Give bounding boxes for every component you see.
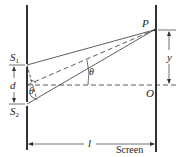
y-arrow-up <box>167 31 171 36</box>
label-o: O <box>146 88 154 99</box>
label-theta-upper: θ <box>89 67 94 77</box>
ray-s1-to-p <box>27 30 154 65</box>
y-arrow-down <box>167 79 171 84</box>
d-arrow-down <box>12 98 16 103</box>
label-p: P <box>142 18 149 29</box>
label-theta-lower: θ <box>29 86 34 96</box>
label-l: l <box>88 138 91 149</box>
double-slit-diagram <box>0 0 181 157</box>
point-p-marker <box>154 29 156 31</box>
label-s2: S2 <box>10 106 19 119</box>
label-d: d <box>10 80 16 91</box>
label-s1: S1 <box>10 52 19 65</box>
l-arrow-right <box>150 142 155 146</box>
label-screen: Screen <box>116 145 143 155</box>
label-y: y <box>167 52 172 63</box>
l-arrow-left <box>28 142 33 146</box>
d-arrow-up <box>12 66 16 71</box>
